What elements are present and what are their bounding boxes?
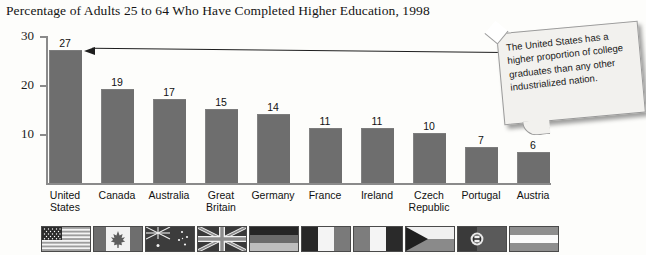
bar-value-label: 17 bbox=[153, 86, 185, 98]
flag-row bbox=[0, 226, 646, 251]
bar-united-states bbox=[49, 50, 82, 183]
x-label-canada: Canada bbox=[89, 190, 145, 202]
bar-group: 19 bbox=[101, 36, 133, 183]
flag-united-states-icon bbox=[41, 226, 91, 252]
bar-austria bbox=[517, 152, 550, 183]
flag-australia-icon bbox=[145, 226, 195, 252]
bar-canada bbox=[101, 89, 134, 183]
bar-ireland bbox=[361, 128, 394, 183]
bar-value-label: 19 bbox=[101, 76, 133, 88]
x-label-germany: Germany bbox=[245, 190, 301, 202]
x-axis-labels: United States Canada Australia Great Bri… bbox=[0, 190, 646, 220]
bar-france bbox=[309, 128, 342, 183]
bar-australia bbox=[153, 99, 186, 183]
x-label-line1: Australia bbox=[141, 190, 197, 202]
bar-value-label: 10 bbox=[413, 120, 445, 132]
x-label-portugal: Portugal bbox=[453, 190, 509, 202]
bar-germany bbox=[257, 114, 290, 183]
x-label-line1: Ireland bbox=[349, 190, 405, 202]
x-label-line2: Republic bbox=[401, 202, 457, 214]
x-label-united-states: United States bbox=[37, 190, 93, 213]
bar-group: 10 bbox=[413, 36, 445, 183]
bar-group: 14 bbox=[257, 36, 289, 183]
page-title: Percentage of Adults 25 to 64 Who Have C… bbox=[6, 3, 430, 19]
bar-value-label: 6 bbox=[517, 139, 549, 151]
bar-value-label: 7 bbox=[465, 134, 497, 146]
x-label-czech-republic: Czech Republic bbox=[401, 190, 457, 213]
flag-ireland-icon bbox=[353, 226, 403, 252]
flag-canada-icon bbox=[93, 226, 143, 252]
bar-group: 11 bbox=[361, 36, 393, 183]
bar-group: 15 bbox=[205, 36, 237, 183]
flag-portugal-icon bbox=[457, 226, 507, 252]
bar-great-britain bbox=[205, 109, 238, 183]
bar-value-label: 14 bbox=[257, 101, 289, 113]
bar-group: 17 bbox=[153, 36, 185, 183]
x-label-line1: Portugal bbox=[453, 190, 509, 202]
bar-group: 11 bbox=[309, 36, 341, 183]
bar-group: 27 bbox=[49, 36, 81, 183]
bar-group: 7 bbox=[465, 36, 497, 183]
flag-czech-republic-icon bbox=[405, 226, 455, 252]
x-label-line1: Czech bbox=[401, 190, 457, 202]
x-label-australia: Australia bbox=[141, 190, 197, 202]
bar-value-label: 11 bbox=[309, 115, 341, 127]
flag-germany-icon bbox=[249, 226, 299, 252]
x-label-austria: Austria bbox=[505, 190, 561, 202]
flag-austria-icon bbox=[509, 226, 559, 252]
x-label-line1: United bbox=[37, 190, 93, 202]
bar-portugal bbox=[465, 147, 498, 183]
x-label-france: France bbox=[297, 190, 353, 202]
x-label-line2: Britain bbox=[193, 202, 249, 214]
flag-great-britain-icon bbox=[197, 226, 247, 252]
chart-figure: Percentage of Adults 25 to 64 Who Have C… bbox=[0, 0, 646, 255]
x-label-ireland: Ireland bbox=[349, 190, 405, 202]
x-axis-line bbox=[46, 183, 551, 185]
bar-value-label: 11 bbox=[361, 115, 393, 127]
annotation-callout: The United States has a higher proportio… bbox=[496, 21, 646, 125]
x-label-line1: Germany bbox=[245, 190, 301, 202]
x-label-great-britain: Great Britain bbox=[193, 190, 249, 213]
flag-france-icon bbox=[301, 226, 351, 252]
x-label-line1: France bbox=[297, 190, 353, 202]
bar-value-label: 27 bbox=[49, 37, 81, 49]
x-label-line1: Austria bbox=[505, 190, 561, 202]
bar-czech-republic bbox=[413, 133, 446, 183]
x-label-line1: Canada bbox=[89, 190, 145, 202]
annotation-arrow-head bbox=[84, 47, 95, 55]
x-label-line1: Great bbox=[193, 190, 249, 202]
x-label-line2: States bbox=[37, 202, 93, 214]
bar-value-label: 15 bbox=[205, 96, 237, 108]
